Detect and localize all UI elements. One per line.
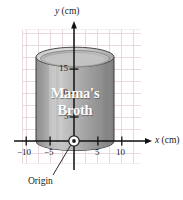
can-top-inner-well — [44, 52, 106, 66]
y-tick-label-5: 5 — [64, 112, 69, 121]
origin-marker — [69, 136, 79, 146]
x-axis-arrowhead — [145, 138, 152, 144]
coordinate-diagram-figure: y (cm) x (cm) −10 −5 5 10 5 10 15 Mama's… — [0, 0, 183, 200]
y-axis-label: y (cm) — [55, 7, 80, 17]
origin-annotation-label: Origin — [28, 177, 53, 187]
y-axis-arrowhead — [71, 21, 77, 29]
x-tick-label-5: 5 — [95, 148, 100, 157]
y-tick-label-15: 15 — [59, 64, 68, 73]
x-axis-label: x (cm) — [155, 136, 180, 146]
cylinder-soup-can — [36, 47, 114, 150]
x-tick-label-minus5: −5 — [44, 148, 54, 157]
x-tick-label-minus10: −10 — [17, 148, 31, 157]
y-tick-label-10: 10 — [59, 88, 68, 97]
x-tick-label-10: 10 — [116, 148, 125, 157]
figure-canvas — [0, 0, 183, 200]
